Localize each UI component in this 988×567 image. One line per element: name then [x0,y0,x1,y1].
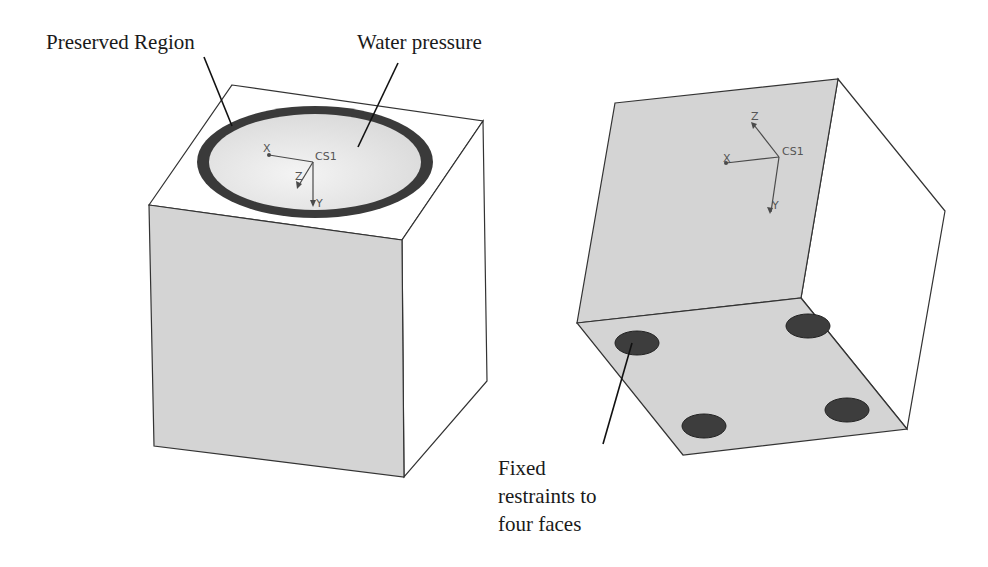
preserved-region-label: Preserved Region [46,30,195,54]
y-axis-label: Y [315,197,323,210]
z-axis-label: Z [751,110,759,123]
water-pressure-label: Water pressure [357,30,482,54]
x-axis-label: X [723,152,731,165]
left-block-model: X Y Z CS1 Preserved Region Water pressur… [46,30,487,477]
right-upper-face [577,79,838,323]
x-axis-label: X [263,142,271,155]
y-axis-label: Y [771,199,779,212]
cs-label: CS1 [782,145,804,158]
fixed-restraints-label-line2: restraints to [498,484,597,508]
z-axis-label: Z [295,170,303,183]
restraint-pad-2 [786,314,830,338]
restraint-pad-4 [825,398,869,422]
restraint-pad-1 [615,331,659,355]
left-front-face [149,205,404,477]
cs-label: CS1 [315,150,337,163]
restraint-pad-3 [682,414,726,438]
right-block-model: X Y Z CS1 Fixed restraints to four faces [498,79,945,536]
figure-canvas: X Y Z CS1 Preserved Region Water pressur… [0,0,988,567]
fixed-restraints-label-line1: Fixed [498,456,546,480]
fixed-restraints-label-line3: four faces [498,512,581,536]
